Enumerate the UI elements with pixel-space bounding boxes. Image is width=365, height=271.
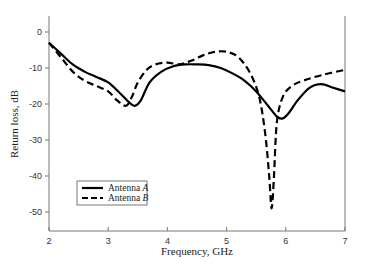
return-loss-chart: 0-10-20-30-40-50 234567 Frequency, GHz R… [0, 0, 365, 271]
x-axis-title: Frequency, GHz [161, 245, 233, 257]
x-tick-label: 7 [342, 236, 347, 246]
y-tick-label: -40 [29, 171, 42, 181]
x-tick-label: 6 [283, 236, 288, 246]
y-tick-label: 0 [37, 27, 42, 37]
legend-label-a: Antenna A [108, 183, 149, 193]
x-ticks: 234567 [46, 227, 347, 246]
y-ticks: 0-10-20-30-40-50 [29, 27, 49, 217]
antenna-a-line [49, 43, 345, 119]
legend-label-b: Antenna B [108, 193, 149, 203]
y-tick-label: -10 [29, 63, 42, 73]
y-tick-label: -50 [29, 207, 42, 217]
legend: Antenna A Antenna B [77, 181, 149, 205]
x-tick-label: 2 [46, 236, 51, 246]
y-tick-label: -20 [29, 99, 42, 109]
y-axis-title: Return loss, dB [8, 90, 20, 158]
y-tick-label: -30 [29, 135, 42, 145]
x-tick-label: 3 [106, 236, 111, 246]
